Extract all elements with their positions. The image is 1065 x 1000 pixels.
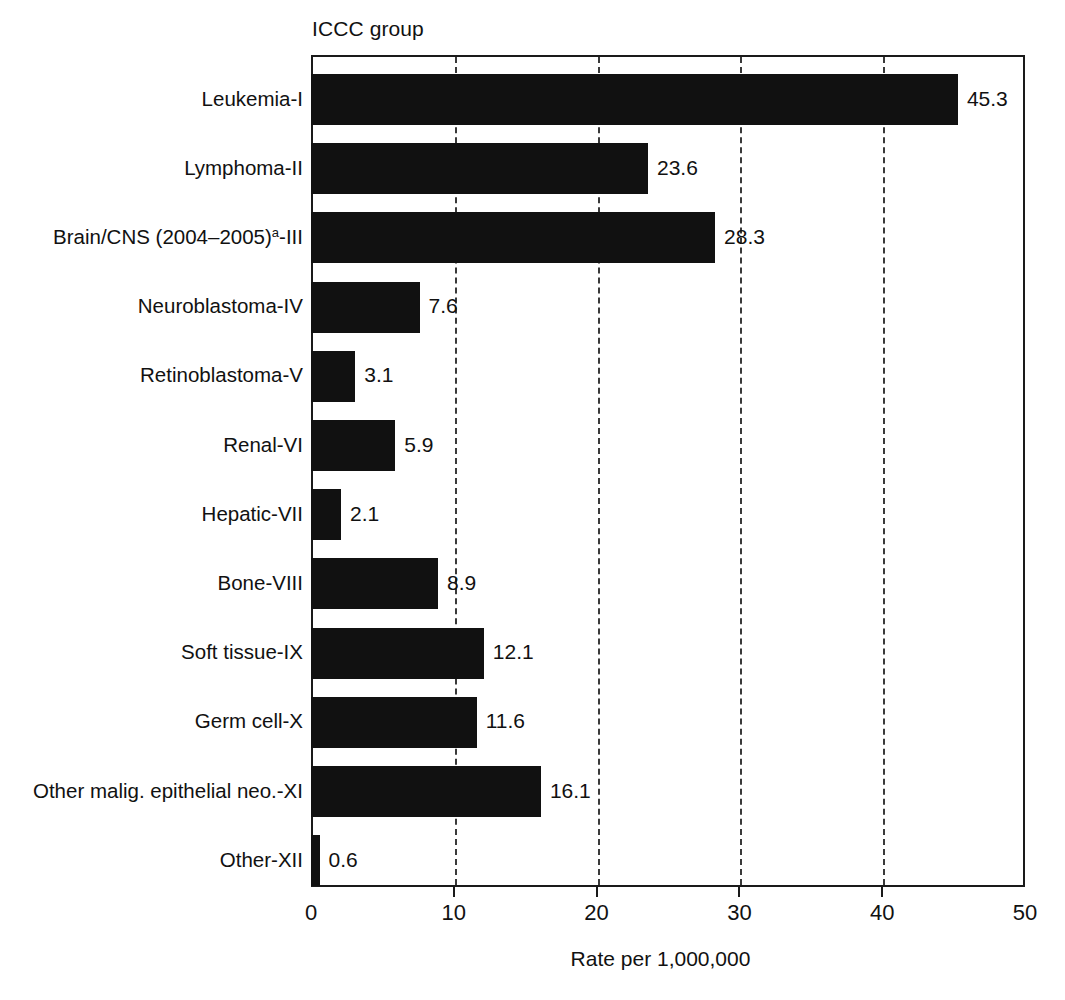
- x-axis-title-wrapper: Rate per 1,000,000: [0, 947, 1065, 971]
- bar: [311, 489, 341, 540]
- value-label: 7.6: [429, 296, 458, 316]
- value-label: 3.1: [364, 365, 393, 385]
- bar: [311, 212, 715, 263]
- tick-label-40: 40: [852, 901, 912, 925]
- category-label: Lymphoma-II: [3, 158, 303, 178]
- footnote-marker: a: [272, 225, 279, 240]
- category-label: Other malig. epithelial neo.-XI: [3, 781, 303, 801]
- bar: [311, 628, 484, 679]
- category-label: Renal-VI: [3, 435, 303, 455]
- bar: [311, 143, 648, 194]
- tick-label-30: 30: [709, 901, 769, 925]
- category-label: Bone-VIII: [3, 573, 303, 593]
- bar: [311, 835, 320, 886]
- group-axis-title: ICCC group: [312, 17, 424, 41]
- category-label: Brain/CNS (2004–2005)a-III: [3, 227, 303, 247]
- x-axis-title: Rate per 1,000,000: [571, 947, 751, 970]
- tick-label-10: 10: [424, 901, 484, 925]
- value-label: 8.9: [447, 573, 476, 593]
- tick-mark-30: [738, 887, 740, 897]
- bar: [311, 420, 395, 471]
- tick-label-20: 20: [567, 901, 627, 925]
- bar: [311, 766, 541, 817]
- tick-mark-20: [596, 887, 598, 897]
- value-label: 28.3: [724, 227, 765, 247]
- bar: [311, 282, 420, 333]
- value-label: 12.1: [493, 642, 534, 662]
- category-label: Retinoblastoma-V: [3, 365, 303, 385]
- value-label: 0.6: [329, 850, 358, 870]
- tick-mark-10: [453, 887, 455, 897]
- category-label: Leukemia-I: [3, 89, 303, 109]
- tick-label-50: 50: [995, 901, 1055, 925]
- bar: [311, 558, 438, 609]
- value-label: 2.1: [350, 504, 379, 524]
- value-label: 16.1: [550, 781, 591, 801]
- value-label: 11.6: [486, 711, 525, 731]
- bar: [311, 351, 355, 402]
- tick-mark-40: [881, 887, 883, 897]
- bar: [311, 74, 958, 125]
- category-label: Hepatic-VII: [3, 504, 303, 524]
- bar-chart-figure: ICCC group Leukemia-ILymphoma-IIBrain/CN…: [0, 0, 1065, 1000]
- value-label: 23.6: [657, 158, 698, 178]
- bar: [311, 697, 477, 748]
- category-label: Soft tissue-IX: [3, 642, 303, 662]
- category-label: Neuroblastoma-IV: [3, 296, 303, 316]
- tick-label-0: 0: [281, 901, 341, 925]
- category-label: Germ cell-X: [3, 711, 303, 731]
- value-label: 5.9: [404, 435, 433, 455]
- category-label: Other-XII: [3, 850, 303, 870]
- bars-layer: [311, 55, 1025, 887]
- value-label: 45.3: [967, 89, 1008, 109]
